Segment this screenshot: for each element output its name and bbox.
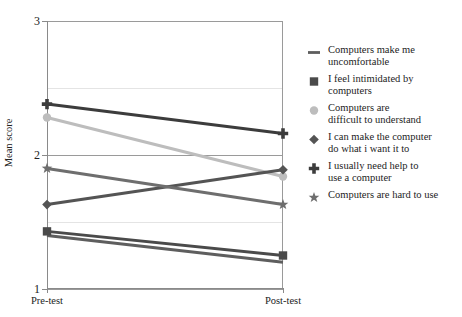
legend-item[interactable]: Computers are hard to use — [306, 189, 458, 204]
series-line — [47, 117, 283, 176]
x-axis-tick-label: Post-test — [265, 295, 301, 306]
data-point-circle-marker — [43, 113, 51, 121]
data-point-plus-marker — [42, 99, 52, 109]
legend-item-label: I usually need help to use a computer — [328, 160, 418, 184]
series-line — [47, 231, 283, 255]
plot-area: Pre-testPost-test — [47, 21, 283, 289]
diamond-marker — [306, 132, 322, 147]
circle-marker — [306, 103, 322, 118]
data-point-square-marker — [43, 227, 51, 235]
legend-item-label: Computers are hard to use — [328, 189, 438, 201]
series-3 — [43, 113, 287, 180]
series-line — [47, 104, 283, 133]
line-chart: Mean score 123 Pre-testPost-test Compute… — [0, 0, 462, 317]
legend-item[interactable]: Computers are difficult to understand — [306, 102, 458, 126]
y-axis-tick-label: 1 — [0, 283, 40, 295]
gridline-major — [47, 289, 283, 290]
star-marker — [306, 190, 322, 205]
plus-marker — [306, 161, 322, 176]
square-marker — [306, 74, 322, 89]
series-1 — [47, 235, 283, 262]
series-layer — [47, 21, 283, 289]
y-axis-tick-label: 2 — [0, 149, 40, 161]
data-point-square-marker — [279, 251, 287, 259]
data-point-star-marker — [42, 163, 53, 173]
legend-item[interactable]: Computers make me uncomfortable — [306, 44, 458, 68]
legend-item[interactable]: I usually need help to use a computer — [306, 160, 458, 184]
legend-item-label: I feel intimidated by computers — [328, 73, 413, 97]
data-point-plus-marker — [278, 128, 288, 138]
y-axis-tick-label: 3 — [0, 15, 40, 27]
legend-item-label: Computers make me uncomfortable — [328, 44, 415, 68]
legend-item-label: I can make the computer do what i want i… — [328, 131, 432, 155]
legend: Computers make me uncomfortableI feel in… — [306, 44, 458, 209]
data-point-star-marker — [278, 199, 289, 209]
legend-item[interactable]: I can make the computer do what i want i… — [306, 131, 458, 155]
data-point-diamond-marker — [42, 200, 52, 210]
x-axis-tick-label: Pre-test — [31, 295, 63, 306]
dash-line-marker — [306, 45, 322, 60]
series-2 — [43, 227, 287, 260]
legend-item[interactable]: I feel intimidated by computers — [306, 73, 458, 97]
series-5 — [42, 99, 288, 139]
series-line — [47, 235, 283, 262]
data-point-diamond-marker — [278, 165, 288, 175]
x-axis-tick — [283, 288, 284, 293]
legend-item-label: Computers are difficult to understand — [328, 102, 421, 126]
